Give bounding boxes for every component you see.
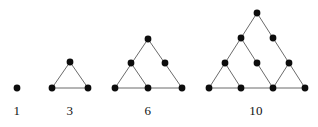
dot-node [49,85,56,92]
figure-dots-3 [49,59,92,92]
dot-node [145,85,152,92]
figure-count-label-1: 1 [14,104,21,117]
edges-layer [52,13,305,88]
edge [257,13,305,88]
dot-node [238,35,245,42]
dot-node [286,60,293,67]
edge [209,13,257,88]
dot-node [270,35,277,42]
dot-node [302,85,309,92]
edge [70,62,88,88]
figure-dots-10 [206,10,309,92]
edge [131,63,148,88]
figure-count-label-10: 10 [249,104,263,117]
dot-node [128,60,135,67]
edge [273,63,289,88]
dot-node [254,10,261,17]
figure-dots-6 [112,36,186,92]
dot-node [67,59,74,66]
edge [52,62,70,88]
figure-count-label-3: 3 [67,104,74,117]
dot-node [270,85,277,92]
dot-node [206,85,213,92]
figure-dots-1 [14,85,21,92]
dot-node [222,60,229,67]
dot-node [14,85,21,92]
figure-edges-10 [209,13,305,88]
figure-edges-6 [115,39,182,88]
figure-edges-3 [52,62,88,88]
dot-node [238,85,245,92]
figure-count-label-6: 6 [145,104,152,117]
dot-node [254,60,261,67]
edge [225,63,241,88]
dot-node [179,85,186,92]
dot-node [112,85,119,92]
diagram-canvas [0,0,318,127]
dot-node [85,85,92,92]
dot-node [145,36,152,43]
dot-node [162,60,169,67]
triangular-numbers-diagram: 13610 [0,0,318,127]
